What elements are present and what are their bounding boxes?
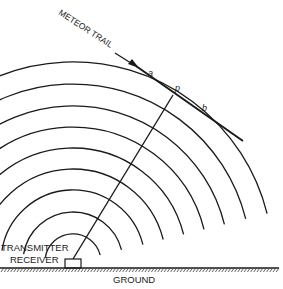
point-b-label: b [202, 103, 207, 113]
receiver-label: RECEIVER [10, 254, 59, 265]
transmitter-label: TRANSMITTER [1, 242, 69, 253]
wavefront-arc [0, 127, 204, 241]
meteor-scatter-diagram: METEOR TRAIL a p b TRANSMITTER RECEIVER … [0, 0, 283, 289]
wavefront-arc [0, 106, 224, 238]
radial-ray-to-p [73, 95, 173, 259]
point-a-label: a [148, 68, 153, 78]
meteor-trail-label: METEOR TRAIL [57, 7, 115, 50]
wavefront-arc [0, 148, 184, 244]
diagram-canvas: METEOR TRAIL a p b TRANSMITTER RECEIVER … [0, 0, 283, 289]
ground-hatching [1, 269, 279, 273]
point-p-label: p [174, 83, 180, 93]
transmitter-receiver-box [65, 259, 81, 268]
ground-label: GROUND [113, 274, 155, 285]
